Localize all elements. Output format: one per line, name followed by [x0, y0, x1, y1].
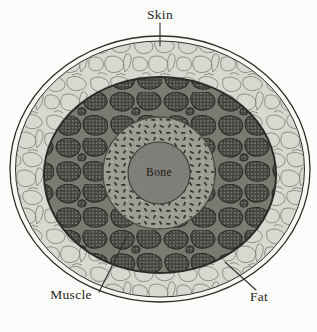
- tissue-cross-section-figure: Skin Muscle Fat Bone: [0, 0, 317, 332]
- muscle-label: Muscle: [50, 288, 92, 302]
- bone-label: Bone: [146, 167, 172, 179]
- skin-label: Skin: [147, 8, 173, 22]
- fat-label: Fat: [250, 290, 268, 304]
